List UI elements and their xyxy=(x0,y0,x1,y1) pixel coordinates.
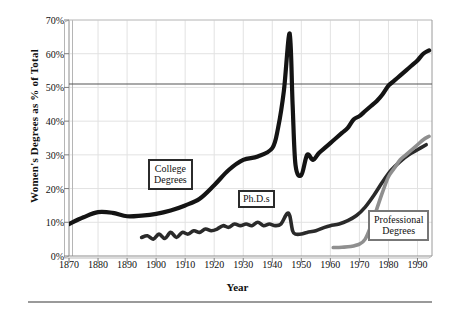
callout-line-1: College xyxy=(154,163,187,174)
callout-line-2: Degrees xyxy=(374,225,423,236)
callout-line-1: Professional xyxy=(374,214,423,225)
series-callout-professional-degrees: Professional Degrees xyxy=(368,210,429,241)
callout-line-2: Degrees xyxy=(154,174,187,185)
series-callout-college-degrees: College Degrees xyxy=(148,159,193,190)
series-callout-phds: Ph.D.s xyxy=(238,190,275,208)
callout-line-1: Ph.D.s xyxy=(243,193,270,204)
chart-figure: Women's Degrees as % of Total 0%10%20%30… xyxy=(0,0,457,310)
x-axis-title: Year xyxy=(0,281,457,293)
plot-area xyxy=(0,0,457,310)
footer-rule xyxy=(28,301,432,303)
